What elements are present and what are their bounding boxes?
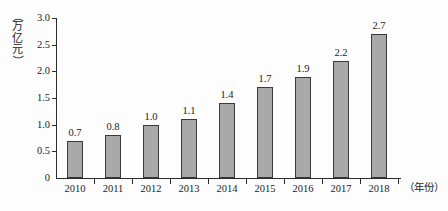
y-tick-label-1.5: 1.5 [16,93,50,103]
bar-value-label-2018: 2.7 [359,21,399,32]
x-category-label-2012: 2012 [130,183,172,194]
y-tick-label-0.5: 0.5 [16,146,50,156]
y-tick-2.0 [52,71,57,72]
x-category-label-2017: 2017 [320,183,362,194]
x-axis-label: （年份） [404,182,444,193]
bar-2010 [67,141,83,178]
x-category-label-2014: 2014 [206,183,248,194]
y-tick-label-2.5: 2.5 [16,40,50,50]
bar-2016 [295,77,311,178]
y-tick-label-3.0: 3.0 [16,13,50,23]
bar-value-label-2014: 1.4 [207,90,247,101]
x-category-label-2010: 2010 [54,183,96,194]
y-tick-2.5 [52,45,57,46]
x-category-label-2013: 2013 [168,183,210,194]
bar-2015 [257,87,273,178]
y-tick-1.0 [52,125,57,126]
bar-2014 [219,103,235,178]
y-tick-label-2.0: 2.0 [16,66,50,76]
bar-2017 [333,61,349,178]
bar-2013 [181,119,197,178]
y-tick-label-1.0: 1.0 [16,120,50,130]
x-category-label-2018: 2018 [358,183,400,194]
x-category-label-2015: 2015 [244,183,286,194]
bar-value-label-2013: 1.1 [169,106,209,117]
x-category-label-2016: 2016 [282,183,324,194]
bar-value-label-2011: 0.8 [93,122,133,133]
bar-value-label-2016: 1.9 [283,64,323,75]
bar-value-label-2015: 1.7 [245,74,285,85]
y-tick-0.5 [52,151,57,152]
y-tick-label-0: 0 [16,173,50,183]
x-category-label-2011: 2011 [92,183,134,194]
bar-2012 [143,125,159,178]
bar-value-label-2012: 1.0 [131,112,171,123]
y-tick-1.5 [52,98,57,99]
bar-2018 [371,34,387,178]
bar-2011 [105,135,121,178]
bar-value-label-2017: 2.2 [321,48,361,59]
y-tick-3.0 [52,18,57,19]
bar-chart: （ 万 亿 元 ） 3.0 2.5 2.0 1.5 1.0 0.5 0 0.72… [0,0,448,211]
bar-value-label-2010: 0.7 [55,128,95,139]
